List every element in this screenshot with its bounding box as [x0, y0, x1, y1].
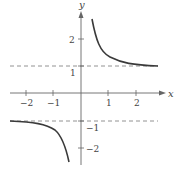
- x-tick-label: −2: [20, 98, 33, 108]
- y-axis-label: y: [78, 0, 85, 10]
- y-tick-label: −1: [86, 123, 99, 133]
- curve-right-branch: [92, 19, 158, 66]
- x-tick-label: 1: [106, 98, 112, 108]
- y-tick-label: 2: [69, 35, 75, 45]
- y-tick-label: −2: [86, 144, 99, 154]
- x-axis-label: x: [168, 88, 174, 99]
- x-axis-arrow-icon: [159, 91, 166, 96]
- x-tick-label: −1: [47, 98, 60, 108]
- y-axis-arrow-icon: [79, 11, 84, 18]
- coordinate-plane: x y −2 −1 1 2 2 1 −1 −2: [0, 0, 181, 173]
- x-tick-label: 2: [134, 98, 140, 108]
- curve-left-branch: [10, 121, 69, 162]
- y-tick-label: 1: [70, 68, 76, 78]
